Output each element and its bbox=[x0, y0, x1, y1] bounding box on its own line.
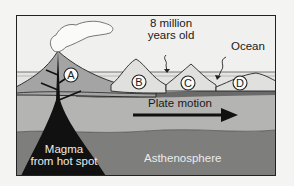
asthenosphere-label: Asthenosphere bbox=[144, 152, 221, 164]
plate-motion-label: Plate motion bbox=[148, 97, 212, 109]
magma-label: Magma from hot spot bbox=[24, 143, 104, 167]
hot-spot-diagram: A B C D 8 million years old Ocean Plate … bbox=[16, 15, 276, 176]
island-b-label: B bbox=[133, 76, 145, 88]
age-label: 8 million years old bbox=[141, 17, 201, 41]
island-a-label: A bbox=[65, 69, 77, 81]
island-d-label: D bbox=[234, 77, 246, 89]
island-c-label: C bbox=[182, 77, 194, 89]
ocean-label: Ocean bbox=[231, 40, 265, 52]
